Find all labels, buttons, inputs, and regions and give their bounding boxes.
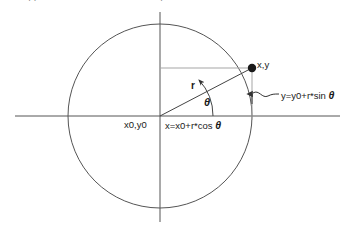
top-fragment-left: · · bbox=[28, 0, 37, 5]
y-equation-text: y=y0+r*sin bbox=[281, 90, 329, 101]
radius-line bbox=[160, 69, 251, 117]
diagram-canvas: · · · x,y x0,y0 r θ x=x0+r*cos θ y=y0+r*… bbox=[0, 0, 362, 228]
y-equation-theta: θ bbox=[329, 89, 335, 101]
point-label: x,y bbox=[257, 60, 269, 70]
y-equation-label: y=y0+r*sin θ bbox=[281, 90, 334, 101]
x-equation-text: x=x0+r*cos bbox=[165, 120, 215, 131]
y-equation-leader bbox=[253, 92, 279, 97]
x-equation-label: x=x0+r*cos θ bbox=[165, 120, 221, 131]
top-fragment-center: · bbox=[160, 0, 163, 5]
radius-label: r bbox=[191, 81, 195, 91]
x-equation-theta: θ bbox=[215, 119, 221, 131]
angle-label: θ bbox=[204, 97, 210, 108]
diagram-svg bbox=[0, 0, 362, 228]
point-marker bbox=[248, 64, 256, 72]
origin-label: x0,y0 bbox=[124, 120, 147, 130]
